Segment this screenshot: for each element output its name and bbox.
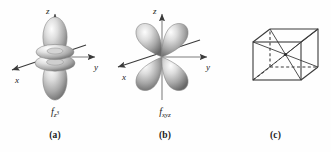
lobe-upper-left xyxy=(136,23,162,57)
cube-edge-br xyxy=(301,67,318,80)
axis-label-y: y xyxy=(205,62,210,72)
axis-label-y: y xyxy=(93,62,98,72)
panel-b: z y x fxyz (b) xyxy=(110,0,220,152)
orbital-subscript-a: z3 xyxy=(54,111,59,119)
lobe-lower-right xyxy=(162,57,188,91)
axis-label-z: z xyxy=(45,6,50,16)
orbital-superscript-a: 3 xyxy=(56,110,59,116)
panel-a: z y x xyxy=(0,0,110,152)
cube-edge-tl xyxy=(253,29,270,42)
caption-c: (c) xyxy=(220,130,331,140)
orbital-label-b: fxyz xyxy=(110,106,220,119)
lobe-lower-left xyxy=(136,57,162,91)
cube-centre-point xyxy=(284,53,287,56)
orbital-figure: z y x xyxy=(0,0,331,152)
panel-c: (c) xyxy=(220,0,331,152)
lobe-upper-right xyxy=(162,23,188,57)
cube-diagonals xyxy=(253,29,318,80)
torus-upper xyxy=(36,44,74,59)
caption-b: (b) xyxy=(110,130,220,140)
axis-label-z: z xyxy=(152,6,157,16)
axis-label-x: x xyxy=(121,72,126,82)
orbital-label-a: fz3 xyxy=(0,106,110,119)
axis-label-x: x xyxy=(14,75,19,85)
diagonal-7 xyxy=(286,55,319,68)
orbital-subscript-b: xyz xyxy=(162,111,171,119)
caption-a: (a) xyxy=(0,130,110,140)
diagonal-1 xyxy=(253,42,286,55)
